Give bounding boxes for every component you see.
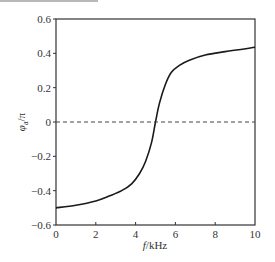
y-tick-label: 0.4: [37, 47, 51, 59]
x-tick-label: 2: [93, 228, 99, 240]
x-tick-label: 6: [173, 228, 179, 240]
y-tick-label: 0.2: [37, 82, 51, 94]
x-tick-label: 4: [133, 228, 139, 240]
y-tick-label: 0.6: [37, 13, 51, 25]
y-tick-label: 0: [46, 116, 52, 128]
data-series: [56, 47, 255, 208]
x-tick-label: 10: [250, 228, 262, 240]
x-axis-label: f/kHz: [143, 239, 168, 251]
phase-frequency-chart: −0.6−0.4−0.200.20.40.6 0246810 f/kHz φa/…: [0, 0, 275, 262]
y-tick-label: −0.4: [31, 185, 51, 197]
y-axis-label: φa/π: [15, 112, 30, 131]
phase-curve: [56, 47, 255, 208]
x-tick-label: 8: [212, 228, 218, 240]
y-tick-label: −0.6: [31, 219, 51, 231]
y-tick-label: −0.2: [31, 150, 51, 162]
x-tick-label: 0: [53, 228, 59, 240]
y-axis-ticks: −0.6−0.4−0.200.20.40.6: [31, 13, 56, 231]
